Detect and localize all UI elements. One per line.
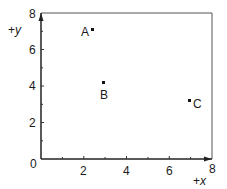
y-tick-8: 8 bbox=[29, 8, 36, 20]
point-a-marker bbox=[91, 28, 94, 31]
x-tick-2: 2 bbox=[80, 165, 87, 177]
x-tick-4: 4 bbox=[123, 165, 130, 177]
y-axis-title-var: y bbox=[15, 23, 21, 37]
point-c-marker bbox=[188, 99, 191, 102]
point-b-label: B bbox=[100, 89, 108, 101]
point-a-label: A bbox=[81, 26, 89, 38]
y-tick-4: 4 bbox=[29, 80, 36, 92]
x-axis-title-sign: + bbox=[193, 174, 200, 188]
y-axis-title-sign: + bbox=[8, 23, 15, 37]
origin-label: 0 bbox=[30, 158, 37, 170]
point-b-marker bbox=[102, 81, 105, 84]
x-tick-6: 6 bbox=[166, 165, 173, 177]
scatter-chart: 8 6 4 2 0 2 4 6 8 +y +x A B C bbox=[0, 0, 227, 189]
x-axis-arrow-icon bbox=[204, 157, 212, 162]
y-axis-arrow-icon bbox=[39, 13, 44, 21]
y-tick-6: 6 bbox=[29, 44, 36, 56]
x-axis-title-var: x bbox=[200, 174, 206, 188]
point-c-label: C bbox=[193, 98, 202, 110]
x-tick-8: 8 bbox=[209, 163, 216, 175]
y-tick-2: 2 bbox=[29, 117, 36, 129]
x-axis-title: +x bbox=[193, 175, 206, 187]
y-axis-title: +y bbox=[8, 24, 21, 36]
